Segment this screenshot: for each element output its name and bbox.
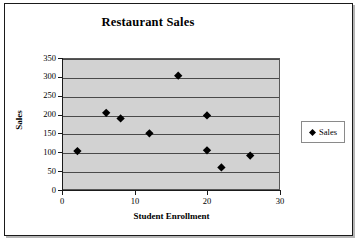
y-tick-label-wrap-250: 250 — [29, 91, 56, 100]
y-tick-mark-100 — [58, 152, 62, 153]
x-tick-label-0: 0 — [47, 196, 77, 206]
data-point-sales-1 — [102, 109, 110, 117]
y-tick-label-200: 200 — [32, 110, 56, 119]
y-axis-line — [62, 58, 63, 191]
x-tick-label-30: 30 — [265, 196, 295, 206]
y-tick-label-350: 350 — [32, 54, 56, 63]
legend-entry-sales: Sales — [302, 122, 344, 142]
y-tick-label-wrap-0: 0 — [29, 186, 56, 195]
x-tick-mark-10 — [135, 191, 136, 195]
y-tick-label-150: 150 — [32, 129, 56, 138]
data-point-sales-3 — [145, 129, 153, 137]
x-axis-line — [62, 190, 281, 191]
x-tick-label-10: 10 — [120, 196, 150, 206]
x-tick-mark-20 — [207, 191, 208, 195]
y-tick-mark-150 — [58, 133, 62, 134]
data-point-sales-6 — [203, 146, 211, 154]
data-point-sales-8 — [246, 151, 254, 159]
data-point-sales-2 — [116, 114, 124, 122]
x-tick-label-20: 20 — [192, 196, 222, 206]
x-tick-mark-30 — [280, 191, 281, 195]
data-points-layer — [63, 59, 279, 189]
data-point-sales-0 — [73, 147, 81, 155]
y-tick-label-100: 100 — [32, 148, 56, 157]
diamond-marker-icon — [309, 129, 316, 136]
y-tick-label-wrap-150: 150 — [29, 129, 56, 138]
y-tick-label-wrap-300: 300 — [29, 72, 56, 81]
legend-label-sales: Sales — [319, 128, 337, 137]
x-axis-title: Student Enrollment — [62, 211, 281, 221]
y-tick-label-wrap-100: 100 — [29, 148, 56, 157]
y-tick-label-wrap-350: 350 — [29, 54, 56, 63]
data-point-sales-5 — [203, 111, 211, 119]
chart-legend: Sales — [301, 121, 345, 143]
y-tick-label-0: 0 — [32, 186, 56, 195]
y-tick-mark-50 — [58, 171, 62, 172]
plot-area — [62, 58, 280, 190]
y-axis-title: Sales — [14, 95, 24, 145]
data-point-sales-4 — [174, 72, 182, 80]
y-tick-mark-300 — [58, 77, 62, 78]
data-point-sales-7 — [217, 163, 225, 171]
x-tick-mark-0 — [62, 191, 63, 195]
y-tick-label-wrap-200: 200 — [29, 110, 56, 119]
y-tick-mark-200 — [58, 115, 62, 116]
y-tick-label-wrap-50: 50 — [29, 167, 56, 176]
y-tick-label-250: 250 — [32, 91, 56, 100]
y-tick-mark-350 — [58, 58, 62, 59]
chart-frame: Restaurant Sales 050100150200250300350 0… — [4, 3, 353, 236]
y-tick-mark-250 — [58, 96, 62, 97]
chart-title: Restaurant Sales — [5, 15, 291, 30]
y-tick-label-50: 50 — [32, 167, 56, 176]
y-tick-label-300: 300 — [32, 72, 56, 81]
